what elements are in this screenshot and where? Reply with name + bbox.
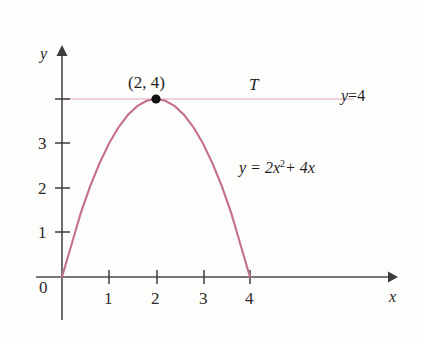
vertex-coordinate-label: (2, 4) (128, 74, 165, 91)
y-axis-arrowhead (57, 45, 68, 56)
x-tick-label-1: 1 (104, 290, 113, 307)
y-tick-label-2: 2 (38, 180, 47, 197)
graph-figure: y x 0 1 2 3 4 1 2 3 (2, 4) T y=4 y = 2x2… (0, 0, 424, 344)
x-axis-arrowhead (388, 272, 398, 283)
parabola-curve (62, 99, 250, 277)
y-equals-4-rhs: 4 (357, 87, 365, 104)
x-tick-label-0: 0 (39, 279, 48, 296)
vertex-point-marker (151, 94, 160, 103)
x-tick-label-4: 4 (245, 290, 254, 307)
y-tick-label-3: 3 (38, 135, 47, 152)
y-axis-label: y (40, 46, 47, 62)
y-equals-4-operator: = (348, 87, 357, 104)
curve-equation-tail: + 4x (285, 159, 315, 176)
tangent-line-label: T (249, 76, 258, 93)
y-tick-label-1: 1 (38, 224, 47, 241)
x-axis-label: x (389, 289, 396, 305)
x-tick-label-2: 2 (151, 290, 160, 307)
curve-equation-label: y = 2x2+ 4x (239, 159, 315, 176)
x-tick-label-3: 3 (199, 290, 208, 307)
curve-equation-main: y = 2x (239, 159, 280, 176)
y-equals-4-label: y=4 (341, 88, 365, 104)
coordinate-plot (0, 0, 424, 344)
